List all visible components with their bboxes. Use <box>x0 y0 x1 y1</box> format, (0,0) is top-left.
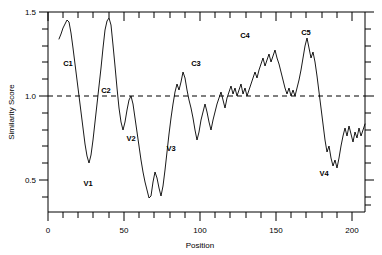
x-axis-title: Position <box>186 241 214 250</box>
annotation-v1: V1 <box>83 179 92 188</box>
annotation-c2: C2 <box>101 86 111 95</box>
annotation-c3: C3 <box>191 59 201 68</box>
x-tick-label: 100 <box>193 226 207 235</box>
annotation-c5: C5 <box>301 28 311 37</box>
y-axis-major-ticks <box>39 12 48 180</box>
y-axis-title: Similarity Score <box>7 84 16 140</box>
axes-frame <box>48 12 365 212</box>
annotation-v3: V3 <box>166 144 175 153</box>
chart-svg: 1.5 1.0 0.5 <box>0 0 382 255</box>
y-tick-label: 1.0 <box>25 92 37 101</box>
annotation-v4: V4 <box>319 169 329 178</box>
y-axis-minor-ticks <box>42 29 48 197</box>
y-tick-label: 0.5 <box>25 176 37 185</box>
x-tick-label: 50 <box>120 226 129 235</box>
x-tick-label: 0 <box>46 226 51 235</box>
x-tick-label: 150 <box>269 226 283 235</box>
annotation-c4: C4 <box>240 31 250 40</box>
annotation-c1: C1 <box>63 59 73 68</box>
x-tick-label: 200 <box>345 226 359 235</box>
y-tick-label: 1.5 <box>25 8 37 17</box>
chart-figure: 1.5 1.0 0.5 <box>0 0 382 255</box>
y-axis-right-ticks <box>365 12 374 205</box>
x-axis-top-ticks <box>48 12 352 21</box>
annotation-v2: V2 <box>126 134 135 143</box>
